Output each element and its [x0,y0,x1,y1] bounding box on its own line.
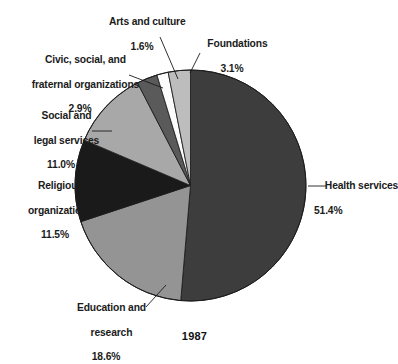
pie-label-foundations-name: Foundations [207,38,267,49]
chart-year-caption: 1987 [0,330,389,342]
pie-label-social-and-legal-services-name-line2: legal services [34,135,99,146]
pie-label-education-and-research: Education and research 18.6% [50,290,162,364]
pie-label-religious-organizations-value: 11.5% [0,229,110,241]
pie-label-foundations: Foundations 3.1% [192,26,272,99]
pie-label-religious-organizations-name-line2: organizations [28,205,93,216]
pie-label-religious-organizations-name-line1: Religious [38,180,83,191]
pie-label-education-and-research-value: 18.6% [50,351,162,363]
pie-label-arts-and-culture-name: Arts and culture [109,16,186,27]
pie-label-health-services: Health services 51.4% [314,168,388,241]
pie-label-social-and-legal-services-name-line1: Social and [41,110,91,121]
pie-slice-health-services [181,70,306,301]
pie-label-civic-social-fraternal-name-line2: fraternal organizations [32,79,140,90]
pie-label-foundations-value: 3.1% [192,63,272,75]
pie-label-health-services-value: 51.4% [314,205,388,217]
pie-label-education-and-research-name-line1: Education and [77,302,146,313]
pie-label-religious-organizations: Religious organizations 11.5% [0,168,110,266]
pie-label-health-services-name: Health services [325,180,398,191]
pie-label-civic-social-fraternal-name-line1: Civic, social, and [45,54,126,65]
